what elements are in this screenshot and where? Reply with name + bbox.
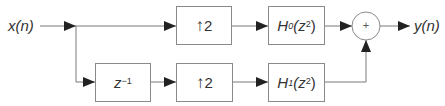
up-arrow-icon: ↑ bbox=[196, 73, 205, 93]
delay-block: z−1 bbox=[95, 63, 151, 102]
filter-arg-exp: 2 bbox=[306, 19, 311, 29]
filter-h1-block: H1(z2) bbox=[268, 63, 325, 102]
filter-arg: (z bbox=[293, 74, 306, 91]
upsampler-top-block: ↑2 bbox=[176, 6, 232, 45]
upsample-factor: 2 bbox=[204, 17, 212, 34]
output-label: y(n) bbox=[414, 18, 440, 33]
filter-name: H bbox=[277, 17, 288, 34]
filter-arg-exp: 2 bbox=[306, 76, 311, 86]
delay-base: z bbox=[114, 74, 122, 91]
filter-h0-block: H0(z2) bbox=[268, 6, 325, 45]
filter-arg-close: ) bbox=[311, 17, 316, 34]
filter-arg-close: ) bbox=[311, 74, 316, 91]
plus-icon: + bbox=[360, 19, 372, 31]
upsample-factor: 2 bbox=[205, 74, 213, 91]
arrowhead bbox=[64, 21, 76, 31]
filter-arg: (z bbox=[293, 17, 306, 34]
input-label: x(n) bbox=[8, 18, 34, 33]
upsampler-bottom-block: ↑2 bbox=[176, 63, 233, 102]
up-arrow-icon: ↑ bbox=[196, 16, 205, 36]
delay-exponent: −1 bbox=[122, 76, 132, 86]
filter-name: H bbox=[277, 74, 288, 91]
